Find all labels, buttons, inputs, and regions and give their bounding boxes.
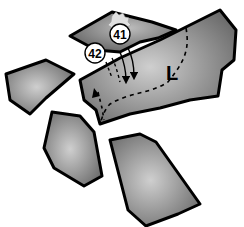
diagram-canvas: 41 42 L bbox=[0, 0, 244, 227]
plate-lower-left bbox=[44, 112, 102, 186]
letter-l: L bbox=[166, 62, 178, 84]
marker-42-label: 42 bbox=[88, 47, 102, 61]
plate-bottom bbox=[110, 134, 200, 226]
plates-diagram: 41 42 L bbox=[0, 0, 244, 227]
plate-left bbox=[6, 60, 74, 114]
marker-41-label: 41 bbox=[113, 28, 127, 42]
